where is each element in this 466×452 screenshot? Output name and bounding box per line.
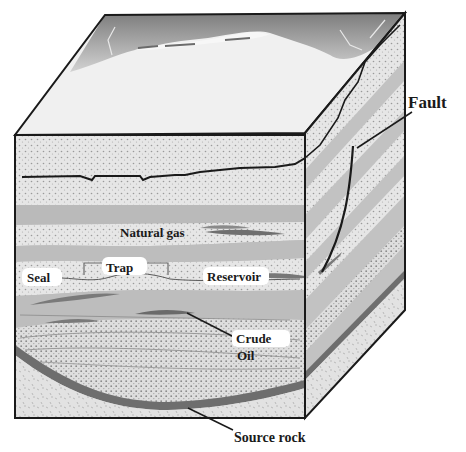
trap-label: Trap xyxy=(106,260,133,275)
oil-label: Oil xyxy=(237,348,255,363)
crude-label: Crude xyxy=(236,331,272,346)
natural-gas-label: Natural gas xyxy=(120,225,185,240)
seal-label: Seal xyxy=(27,270,51,285)
reservoir-label: Reservoir xyxy=(207,269,261,284)
source-rock-label: Source rock xyxy=(234,430,306,445)
fault-label: Fault xyxy=(408,93,447,112)
petroleum-trap-block-diagram: Fault Natural gas Trap Seal Reservoir Cr… xyxy=(0,0,466,452)
